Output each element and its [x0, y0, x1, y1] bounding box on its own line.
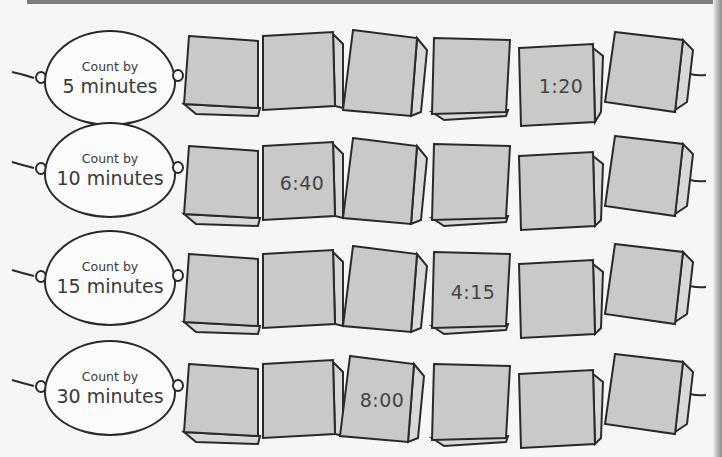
- bead-value[interactable]: [341, 244, 429, 336]
- bead-6[interactable]: [603, 242, 695, 330]
- bead-value[interactable]: [182, 360, 262, 445]
- bead-6[interactable]: [603, 134, 695, 222]
- bead-value[interactable]: [182, 250, 262, 335]
- bead-2[interactable]: 6:40: [261, 140, 343, 225]
- label-line2: 10 minutes: [56, 166, 163, 190]
- bead-value[interactable]: [341, 136, 429, 228]
- bead-6[interactable]: [603, 30, 695, 118]
- label-line1: Count by: [82, 259, 138, 274]
- bead-value[interactable]: [603, 134, 695, 222]
- count-by-30-row: Count by 30 minutes 8:00: [0, 338, 722, 448]
- label-oval: Count by 5 minutes: [44, 30, 176, 126]
- bead-value[interactable]: [603, 30, 695, 118]
- bead-3[interactable]: 8:00: [338, 354, 426, 446]
- label-line2: 5 minutes: [62, 74, 157, 98]
- bead-1[interactable]: [182, 250, 262, 335]
- label-oval: Count by 10 minutes: [44, 122, 176, 218]
- bead-value[interactable]: [517, 368, 605, 448]
- bead-value[interactable]: 6:40: [261, 140, 343, 225]
- bead-value[interactable]: [182, 32, 262, 117]
- bead-2[interactable]: [261, 30, 343, 115]
- bead-4[interactable]: 4:15: [430, 248, 516, 336]
- bead-value[interactable]: [430, 360, 516, 448]
- bead-1[interactable]: [182, 32, 262, 117]
- bead-value[interactable]: [517, 150, 605, 230]
- label-oval: Count by 15 minutes: [44, 230, 176, 326]
- bead-2[interactable]: [261, 358, 343, 443]
- bead-6[interactable]: [603, 352, 695, 440]
- label-line1: Count by: [82, 59, 138, 74]
- bead-value[interactable]: [430, 34, 516, 122]
- bead-3[interactable]: [341, 136, 429, 228]
- bead-value[interactable]: [261, 358, 343, 443]
- count-by-15-row: Count by 15 minutes 4:15: [0, 228, 722, 338]
- bead-value[interactable]: [182, 142, 262, 227]
- bead-value[interactable]: [430, 140, 516, 228]
- bead-2[interactable]: [261, 248, 343, 333]
- bead-value[interactable]: [261, 30, 343, 115]
- bead-1[interactable]: [182, 360, 262, 445]
- label-line1: Count by: [82, 151, 138, 166]
- bead-4[interactable]: [430, 140, 516, 228]
- label-oval: Count by 30 minutes: [44, 340, 176, 436]
- bead-5[interactable]: 1:20: [517, 42, 605, 130]
- bead-4[interactable]: [430, 34, 516, 122]
- bead-value[interactable]: 8:00: [338, 354, 426, 446]
- bead-5[interactable]: [517, 258, 605, 338]
- bead-3[interactable]: [341, 28, 429, 120]
- bead-value[interactable]: 4:15: [430, 248, 516, 336]
- bead-5[interactable]: [517, 150, 605, 230]
- top-border-bar: [27, 0, 722, 4]
- bead-value[interactable]: 1:20: [517, 42, 605, 130]
- label-line2: 15 minutes: [56, 274, 163, 298]
- count-by-10-row: Count by 10 minutes 6:40: [0, 120, 722, 230]
- bead-value[interactable]: [517, 258, 605, 338]
- label-line1: Count by: [82, 369, 138, 384]
- bead-value[interactable]: [261, 248, 343, 333]
- bead-3[interactable]: [341, 244, 429, 336]
- bead-5[interactable]: [517, 368, 605, 448]
- label-line2: 30 minutes: [56, 384, 163, 408]
- bead-1[interactable]: [182, 142, 262, 227]
- count-by-5-row: Count by 5 minutes 1:20: [0, 12, 722, 122]
- bead-value[interactable]: [603, 352, 695, 440]
- bead-4[interactable]: [430, 360, 516, 448]
- bead-value[interactable]: [603, 242, 695, 330]
- bead-value[interactable]: [341, 28, 429, 120]
